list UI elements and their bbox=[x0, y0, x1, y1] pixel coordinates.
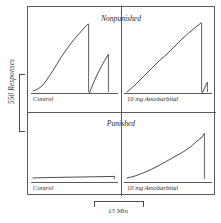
x-axis-label: 15 Min bbox=[94, 207, 142, 215]
record-punished-amobarbital bbox=[124, 129, 214, 181]
horizontal-divider bbox=[28, 112, 216, 113]
caption-nonpunished-amobarbital: 10 mg Amobarbital bbox=[127, 95, 178, 102]
caption-punished-amobarbital: 10 mg Amobarbital bbox=[127, 184, 178, 191]
baseline-punished-amobarbital bbox=[124, 182, 212, 183]
y-axis-label: 550 Responses bbox=[7, 45, 16, 119]
cumulative-record-figure: 550 Responses Nonpunished Punished Contr… bbox=[0, 0, 221, 223]
record-punished-control bbox=[30, 129, 120, 181]
vertical-divider bbox=[121, 7, 122, 196]
baseline-punished-control bbox=[31, 182, 118, 183]
baseline-nonpunished-amobarbital bbox=[124, 93, 212, 94]
record-nonpunished-amobarbital bbox=[124, 21, 214, 97]
caption-nonpunished-control: Control bbox=[33, 95, 53, 102]
y-scale-bar bbox=[19, 74, 25, 132]
caption-punished-control: Control bbox=[33, 184, 53, 191]
band-title-punished: Punished bbox=[28, 119, 214, 128]
plot-frame: Nonpunished Punished Control 10 mg Amoba… bbox=[27, 6, 215, 195]
baseline-nonpunished-control bbox=[31, 93, 118, 94]
record-nonpunished-control bbox=[30, 21, 120, 97]
